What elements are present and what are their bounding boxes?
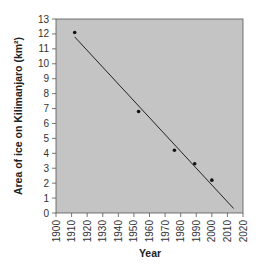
x-tick-label: 2000 [206, 220, 217, 243]
x-axis-title: Year [139, 247, 161, 259]
data-point [73, 31, 77, 35]
y-tick-label: 4 [43, 148, 49, 159]
y-tick-label: 6 [43, 118, 49, 129]
y-tick-label: 11 [39, 43, 50, 54]
x-tick-label: 1940 [113, 220, 124, 243]
y-tick-label: 5 [43, 133, 49, 144]
y-tick-label: 7 [43, 103, 49, 114]
x-tick-label: 2020 [238, 220, 249, 243]
y-tick-label: 13 [38, 14, 50, 25]
y-tick-label: 1 [43, 193, 49, 204]
data-point [173, 149, 177, 153]
x-tick-label: 1970 [160, 220, 171, 243]
x-tick-label: 1910 [66, 220, 77, 243]
y-axis-title: Area of ice on Kilimanjaro (km²) [12, 37, 24, 195]
x-tick-label: 1920 [82, 220, 93, 243]
y-tick-label: 9 [43, 73, 49, 84]
x-tick-label: 1980 [175, 220, 186, 243]
plot-area [56, 19, 243, 213]
x-tick-label: 2010 [222, 220, 233, 243]
y-tick-label: 12 [38, 28, 50, 39]
x-tick-label: 1950 [128, 220, 139, 243]
x-axis-ticks: 1900191019201930194019501960197019801990… [51, 213, 249, 242]
y-tick-label: 2 [43, 178, 49, 189]
y-tick-label: 10 [38, 58, 50, 69]
y-tick-label: 0 [43, 208, 49, 219]
y-tick-label: 3 [43, 163, 49, 174]
data-point [210, 178, 214, 182]
y-tick-label: 8 [43, 88, 49, 99]
y-axis-ticks: 012345678910111213 [38, 14, 56, 219]
x-tick-label: 1990 [191, 220, 202, 243]
ice-area-chart: 012345678910111213 190019101920193019401… [0, 0, 261, 275]
data-point [137, 110, 141, 114]
x-tick-label: 1960 [144, 220, 155, 243]
x-tick-label: 1930 [97, 220, 108, 243]
x-tick-label: 1900 [51, 220, 62, 243]
